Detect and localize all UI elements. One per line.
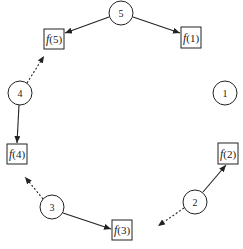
circle-node-label: 4	[18, 88, 23, 99]
box-node-label: f(3)	[114, 223, 131, 237]
ring-diagram: 54132 f(5)f(1)f(4)f(2)f(3)	[0, 0, 243, 249]
arrow-5-solid	[65, 17, 109, 33]
circle-node-label: 2	[193, 197, 198, 208]
circle-node-5: 5	[109, 1, 133, 25]
box-node-f3: f(3)	[112, 220, 132, 240]
circles-group: 54132	[8, 1, 237, 219]
box-node-label: f(2)	[220, 147, 237, 161]
arrow-3-solid	[63, 213, 111, 229]
box-node-label: f(5)	[46, 32, 63, 46]
box-node-f5: f(5)	[44, 29, 64, 49]
function-argument: (5)	[49, 33, 62, 46]
arrow-4-dotted	[27, 56, 44, 83]
circle-node-label: 3	[50, 202, 55, 213]
box-node-f1: f(1)	[181, 27, 201, 48]
box-node-label: f(4)	[9, 147, 26, 161]
circle-node-1: 1	[213, 81, 237, 105]
circle-node-2: 2	[183, 190, 207, 214]
function-argument: (4)	[12, 148, 25, 161]
circle-node-3: 3	[40, 195, 64, 219]
function-argument: (2)	[223, 148, 236, 161]
arrow-2-solid	[203, 165, 226, 192]
arrow-4-solid	[17, 105, 19, 143]
function-argument: (1)	[186, 32, 199, 45]
box-node-f2: f(2)	[218, 143, 238, 164]
circle-node-4: 4	[8, 81, 32, 105]
arrow-3-dotted	[25, 177, 43, 199]
function-argument: (3)	[117, 224, 130, 237]
circle-node-label: 5	[119, 8, 124, 19]
circle-node-label: 1	[223, 88, 228, 99]
arrow-5-solid	[133, 17, 180, 33]
arrow-2-dotted	[158, 208, 184, 226]
box-node-label: f(1)	[183, 31, 200, 45]
box-node-f4: f(4)	[7, 144, 27, 164]
